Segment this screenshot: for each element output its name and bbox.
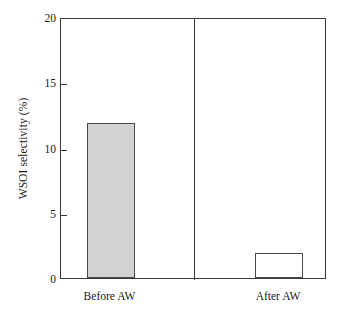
bar-before-aw — [87, 123, 135, 278]
y-tick-label-0: 0 — [12, 273, 56, 285]
x-axis-label-after-aw: After AW — [218, 290, 338, 302]
group-divider — [194, 19, 195, 280]
y-tick-label-20: 20 — [12, 12, 56, 24]
plot-area — [60, 18, 326, 279]
bar-after-aw — [255, 253, 303, 278]
y-tick-mark-10 — [61, 150, 67, 151]
y-tick-mark-5 — [61, 215, 67, 216]
y-tick-mark-15 — [61, 84, 67, 85]
y-tick-label-5: 5 — [12, 208, 56, 220]
y-tick-label-15: 15 — [12, 77, 56, 89]
y-tick-label-10: 10 — [12, 143, 56, 155]
x-axis-label-before-aw: Before AW — [50, 290, 170, 302]
bar-chart-figure: WSOI selectivity (%) 20 15 10 5 0 Before… — [0, 0, 339, 321]
